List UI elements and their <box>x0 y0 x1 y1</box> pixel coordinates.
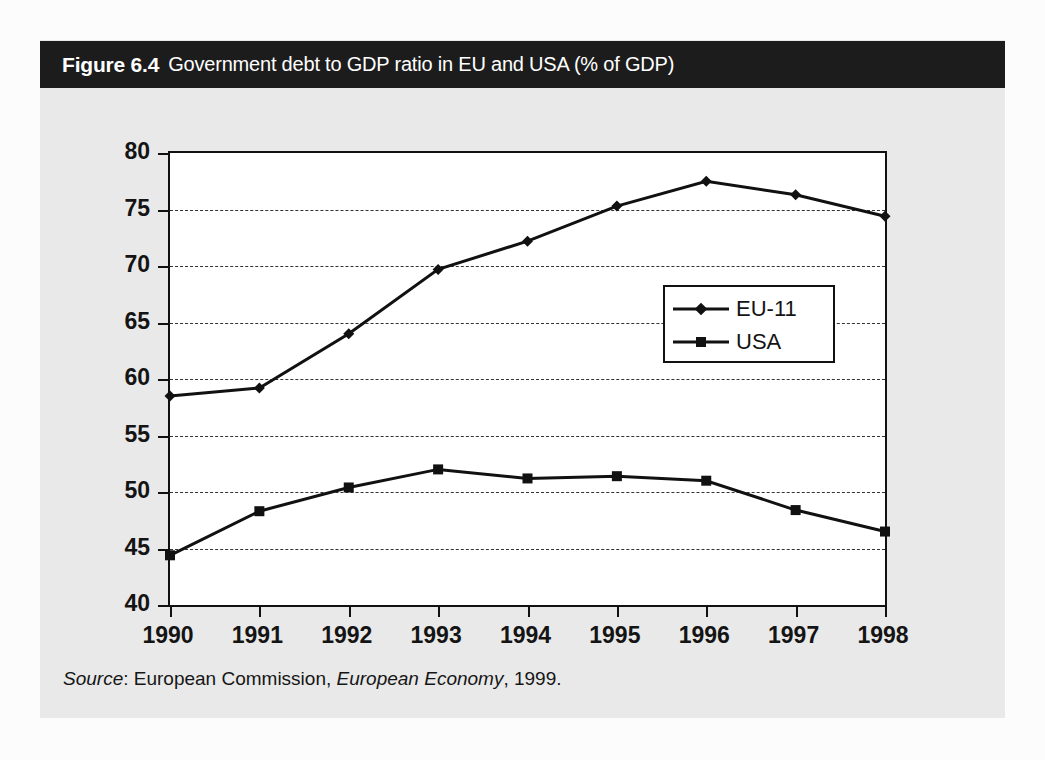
x-tick <box>170 605 172 617</box>
x-tick <box>796 605 798 617</box>
source-prefix: Source <box>63 668 123 689</box>
x-tick <box>349 605 351 617</box>
legend-label-eu11: EU-11 <box>736 296 797 322</box>
legend-label-usa: USA <box>736 329 781 355</box>
y-tick-label: 45 <box>90 533 150 560</box>
legend-item-eu11: EU-11 <box>673 292 825 325</box>
y-tick <box>158 549 169 551</box>
chart-legend: EU-11 USA <box>663 285 835 363</box>
figure-page: Figure 6.4 Government debt to GDP ratio … <box>0 0 1045 760</box>
figure-number: Figure 6.4 <box>62 53 159 77</box>
y-tick-label: 75 <box>90 194 150 221</box>
figure-title-bar: Figure 6.4 Government debt to GDP ratio … <box>40 41 1005 88</box>
source-note: Source: European Commission, European Ec… <box>63 668 562 690</box>
source-separator: : <box>123 668 134 689</box>
data-point-eu-11-1996 <box>701 176 712 187</box>
plot-area <box>168 151 887 607</box>
x-tick-label: 1992 <box>321 622 372 649</box>
x-tick-label: 1991 <box>232 622 283 649</box>
x-tick-label: 1993 <box>411 622 462 649</box>
data-point-usa-1991 <box>254 506 264 516</box>
data-point-usa-1998 <box>880 527 890 537</box>
x-tick <box>438 605 440 617</box>
figure-caption: Government debt to GDP ratio in EU and U… <box>168 53 674 76</box>
data-point-usa-1992 <box>344 482 354 492</box>
data-point-eu-11-1994 <box>522 236 533 247</box>
data-point-usa-1993 <box>433 464 443 474</box>
y-tick-label: 70 <box>90 251 150 278</box>
source-publication: European Economy <box>337 668 504 689</box>
y-tick <box>158 379 169 381</box>
y-tick <box>158 153 169 155</box>
data-point-usa-1990 <box>165 550 175 560</box>
legend-item-usa: USA <box>673 325 825 358</box>
x-tick <box>528 605 530 617</box>
y-tick <box>158 605 169 607</box>
y-tick-label: 80 <box>90 138 150 165</box>
y-tick <box>158 266 169 268</box>
x-tick-label: 1996 <box>679 622 730 649</box>
data-point-usa-1997 <box>791 505 801 515</box>
data-point-eu-11-1995 <box>611 201 622 212</box>
legend-marker-square-icon <box>673 333 729 351</box>
y-tick-label: 50 <box>90 477 150 504</box>
y-tick-label: 40 <box>90 590 150 617</box>
x-tick-label: 1994 <box>500 622 551 649</box>
data-point-usa-1996 <box>701 476 711 486</box>
y-tick <box>158 323 169 325</box>
source-year: , 1999. <box>503 668 561 689</box>
y-tick <box>158 210 169 212</box>
x-tick-label: 1990 <box>142 622 193 649</box>
y-tick-label: 65 <box>90 307 150 334</box>
x-tick <box>706 605 708 617</box>
data-point-usa-1995 <box>612 471 622 481</box>
y-tick <box>158 492 169 494</box>
data-point-eu-11-1997 <box>790 189 801 200</box>
y-tick-label: 55 <box>90 420 150 447</box>
x-tick-label: 1998 <box>857 622 908 649</box>
y-tick-label: 60 <box>90 364 150 391</box>
data-point-usa-1994 <box>523 473 533 483</box>
x-tick <box>885 605 887 617</box>
source-organisation: European Commission, <box>134 668 337 689</box>
x-tick-label: 1997 <box>768 622 819 649</box>
x-tick-label: 1995 <box>589 622 640 649</box>
x-tick <box>259 605 261 617</box>
x-tick <box>617 605 619 617</box>
y-tick <box>158 436 169 438</box>
series-layer <box>170 153 885 605</box>
legend-marker-diamond-icon <box>673 300 729 318</box>
